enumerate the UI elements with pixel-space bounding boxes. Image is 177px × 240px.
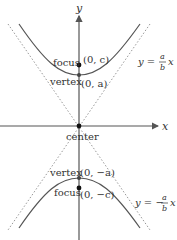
lower-focus-coord: (0, −c) <box>80 189 115 200</box>
hyperbola-diagram: y x focus (0, c) vertex (0, a) center ve… <box>0 0 177 240</box>
asymptote-positive-den: b <box>160 63 165 72</box>
lower-focus-label: focus <box>54 187 81 198</box>
x-axis-label: x <box>162 120 169 133</box>
upper-vertex-coord: (0, a) <box>81 78 108 89</box>
asymptote-positive-lhs: y = <box>137 56 155 67</box>
lower-vertex-coord: (0, −a) <box>80 167 115 178</box>
asymptote-positive-equation: y = a b x <box>137 52 174 72</box>
asymptote-negative-num: a <box>162 193 167 202</box>
lower-vertex-label: vertex <box>49 167 82 178</box>
asymptote-positive-var: x <box>168 56 174 67</box>
center-point <box>77 124 82 129</box>
asymptote-positive-num: a <box>160 52 165 61</box>
asymptote-negative-lhs: y = − <box>134 197 164 208</box>
y-axis-label: y <box>75 2 83 15</box>
asymptote-negative-var: x <box>170 197 176 208</box>
upper-focus-label: focus <box>53 57 80 68</box>
asymptote-negative-den: b <box>162 204 167 213</box>
asymptote-negative-equation: y = − a b x <box>134 193 176 213</box>
center-label: center <box>66 131 99 142</box>
upper-focus-coord: (0, c) <box>83 54 109 65</box>
upper-vertex-label: vertex <box>49 76 82 87</box>
